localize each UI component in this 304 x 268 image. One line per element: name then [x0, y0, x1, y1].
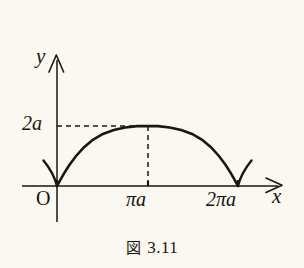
cycloid-plot	[0, 0, 304, 268]
cusp-tail-left	[44, 161, 58, 187]
origin-label: O	[36, 188, 50, 208]
x-tick-label-2pi-a: 2πa	[206, 189, 236, 209]
cusp-tail-right	[238, 161, 252, 187]
figure-caption-number: 3.11	[147, 238, 178, 257]
figure-caption-symbol: 図	[126, 239, 148, 257]
figure-caption: 図3.11	[0, 236, 304, 258]
x-tick-label-pi-a: πa	[126, 189, 146, 209]
y-axis-label: y	[36, 46, 45, 67]
figure-container: y x 2a O πa 2πa 図3.11	[0, 0, 304, 268]
y-tick-label-2a: 2a	[22, 113, 42, 133]
x-axis-label: x	[272, 186, 281, 207]
